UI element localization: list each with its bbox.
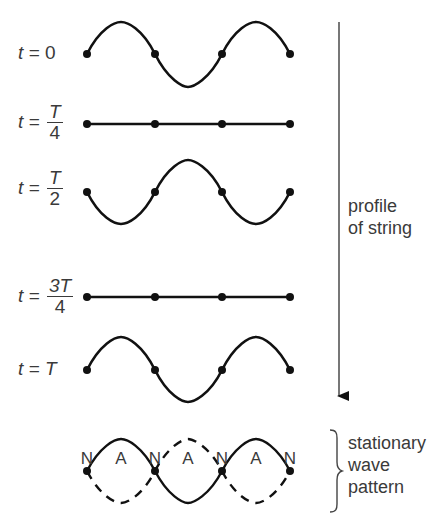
label-prefix: t = xyxy=(18,177,45,198)
label-prefix: t = xyxy=(18,111,45,132)
fraction-denominator: 4 xyxy=(47,297,73,317)
node-label: N xyxy=(216,449,228,469)
time-label-t-half: t = T2 xyxy=(18,168,63,209)
label-value: 0 xyxy=(45,42,56,63)
label-prefix: t = xyxy=(18,42,45,63)
fraction-numerator: T xyxy=(47,102,63,123)
string-profile-t-half xyxy=(83,160,294,224)
label-value: T xyxy=(45,358,57,379)
string-profile-t-quarter xyxy=(83,120,294,128)
brace-icon xyxy=(330,430,342,512)
pattern-label: stationary wave pattern xyxy=(348,432,426,498)
arrow-label: profile of string xyxy=(348,195,412,239)
fraction-numerator: 3T xyxy=(47,276,73,297)
string-profile-t-period xyxy=(83,337,294,402)
time-label-t-three-quarter: t = 3T4 xyxy=(18,276,73,317)
fraction-denominator: 4 xyxy=(47,123,63,143)
string-profile-t-three-quarter xyxy=(83,293,294,301)
time-label-t-period: t = T xyxy=(18,358,57,380)
node-label: N xyxy=(81,449,93,469)
label-prefix: t = xyxy=(18,358,45,379)
arrow-label-line2: of string xyxy=(348,217,412,239)
fraction: 3T4 xyxy=(47,276,73,317)
string-profile-t0 xyxy=(83,22,294,87)
pattern-label-line2: wave xyxy=(348,454,426,476)
arrow-label-line1: profile xyxy=(348,195,412,217)
time-label-t-quarter: t = T4 xyxy=(18,102,63,143)
node-label: N xyxy=(149,449,161,469)
node-label: N xyxy=(284,449,296,469)
antinode-label: A xyxy=(182,449,193,469)
fraction: T2 xyxy=(47,168,63,209)
time-label-t0: t = 0 xyxy=(18,42,56,64)
pattern-label-line1: stationary xyxy=(348,432,426,454)
fraction-numerator: T xyxy=(47,168,63,189)
antinode-label: A xyxy=(250,449,261,469)
label-prefix: t = xyxy=(18,285,45,306)
antinode-label: A xyxy=(115,449,126,469)
pattern-label-line3: pattern xyxy=(348,476,426,498)
fraction: T4 xyxy=(47,102,63,143)
fraction-denominator: 2 xyxy=(47,189,63,209)
